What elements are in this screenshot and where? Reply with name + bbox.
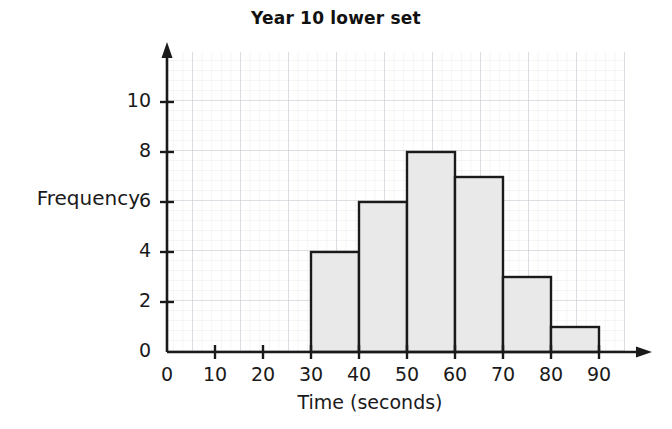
y-tick-label: 4 bbox=[115, 239, 151, 261]
y-tick-label: 8 bbox=[115, 139, 151, 161]
x-tick-label: 70 bbox=[483, 363, 523, 385]
y-tick-label: 2 bbox=[115, 289, 151, 311]
plot-area bbox=[0, 0, 672, 429]
y-tick-label: 10 bbox=[115, 89, 151, 111]
y-tick-label: 6 bbox=[115, 189, 151, 211]
x-tick-label: 20 bbox=[243, 363, 283, 385]
x-tick-label: 30 bbox=[291, 363, 331, 385]
x-tick-label: 10 bbox=[195, 363, 235, 385]
x-tick-label: 90 bbox=[579, 363, 619, 385]
histogram-bar bbox=[455, 177, 503, 352]
histogram-bar bbox=[311, 252, 359, 352]
x-tick-label: 0 bbox=[147, 363, 187, 385]
x-tick-label: 80 bbox=[531, 363, 571, 385]
histogram-bar bbox=[551, 327, 599, 352]
histogram-bar bbox=[407, 152, 455, 352]
y-tick-label: 0 bbox=[115, 339, 151, 361]
x-tick-label: 40 bbox=[339, 363, 379, 385]
x-tick-label: 60 bbox=[435, 363, 475, 385]
x-tick-label: 50 bbox=[387, 363, 427, 385]
histogram-bar bbox=[359, 202, 407, 352]
histogram-figure: Year 10 lower set Frequency Time (second… bbox=[0, 0, 672, 429]
histogram-bar bbox=[503, 277, 551, 352]
